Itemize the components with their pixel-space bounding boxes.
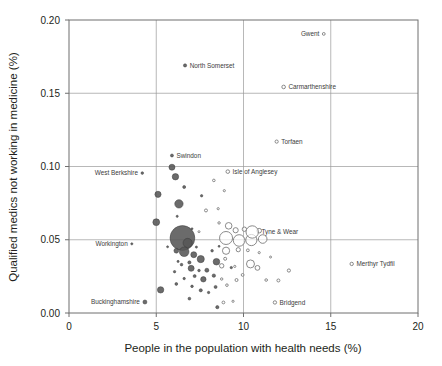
data-bubble: [191, 252, 197, 258]
labeled-data-point: [275, 140, 278, 143]
data-bubble: [270, 256, 272, 258]
x-tick-label: 20: [412, 321, 424, 332]
data-bubble: [246, 260, 254, 268]
labeled-data-point: [143, 300, 147, 304]
data-bubble: [216, 306, 219, 309]
labeled-data-point: [322, 33, 325, 36]
data-bubble: [258, 235, 267, 244]
data-bubble: [212, 274, 215, 277]
data-bubble: [213, 258, 220, 265]
data-bubble: [174, 248, 179, 253]
point-label: Merthyr Tydfil: [356, 260, 394, 268]
data-bubble: [222, 301, 225, 304]
data-bubble: [214, 285, 217, 288]
data-bubble: [197, 255, 204, 262]
data-bubble: [175, 200, 183, 208]
data-bubble: [198, 269, 201, 272]
data-bubble: [179, 247, 189, 257]
y-tick-label: 0.15: [41, 88, 61, 99]
data-bubble: [220, 278, 222, 280]
labeled-data-point: [282, 85, 286, 89]
data-bubble: [218, 245, 220, 247]
data-bubble: [198, 231, 200, 233]
data-bubble: [232, 300, 234, 302]
data-bubble: [188, 261, 191, 264]
data-bubble: [223, 190, 225, 192]
labeled-data-point: [141, 172, 144, 175]
data-bubble: [155, 191, 161, 197]
labeled-data-point: [273, 301, 276, 304]
data-bubble: [188, 297, 191, 300]
data-bubble: [175, 283, 178, 286]
data-bubble: [173, 270, 175, 272]
x-tick-label: 15: [325, 321, 337, 332]
data-bubble: [233, 235, 245, 247]
data-bubble: [241, 274, 244, 277]
data-bubble: [195, 246, 197, 248]
data-bubble: [205, 268, 209, 272]
point-label: West Berkshire: [95, 169, 139, 176]
data-bubble: [183, 277, 185, 279]
point-label: Torfaen: [281, 138, 303, 145]
data-bubble: [193, 275, 196, 278]
data-bubble: [153, 219, 160, 226]
data-bubble: [217, 208, 219, 210]
data-bubble: [287, 269, 290, 272]
point-label: Buckinghamshire: [91, 298, 140, 306]
data-bubble: [191, 285, 194, 288]
labeled-data-point: [131, 243, 133, 245]
data-bubble: [200, 195, 202, 197]
data-bubble: [213, 179, 216, 182]
point-label: Gwent: [301, 30, 320, 37]
data-bubble: [226, 284, 229, 287]
labeled-data-point: [170, 154, 173, 157]
labeled-data-point: [183, 64, 186, 67]
y-tick-label: 0.10: [41, 161, 61, 172]
data-bubble: [169, 164, 175, 170]
data-bubble: [220, 231, 233, 244]
data-bubble: [183, 238, 192, 247]
figure-background: [0, 0, 442, 366]
data-bubble: [207, 291, 209, 293]
data-bubble: [211, 249, 214, 252]
point-label: Bridgend: [280, 299, 306, 307]
data-bubble: [157, 287, 163, 293]
data-bubble: [258, 252, 260, 254]
point-label: Isle of Anglesey: [233, 168, 279, 176]
y-tick-label: 0.05: [41, 234, 61, 245]
point-label: Tyne & Wear: [261, 228, 299, 236]
data-bubble: [235, 279, 238, 282]
x-tick-label: 10: [238, 321, 250, 332]
data-bubble: [277, 279, 280, 282]
data-bubble: [218, 222, 220, 224]
point-label: Carmarthenshire: [288, 83, 336, 90]
data-bubble: [176, 215, 178, 217]
data-bubble: [224, 257, 227, 260]
data-bubble: [230, 266, 232, 268]
x-axis-title: People in the population with health nee…: [124, 342, 361, 354]
data-bubble: [183, 186, 186, 189]
data-bubble: [255, 265, 260, 270]
data-bubble: [246, 249, 249, 252]
x-tick-label: 0: [66, 321, 72, 332]
data-bubble: [180, 263, 183, 266]
data-bubble: [219, 264, 223, 268]
labeled-data-point: [246, 226, 258, 238]
data-bubble: [172, 174, 178, 180]
data-bubble: [234, 265, 236, 267]
y-axis-title: Qualified medics not working in medicine…: [7, 52, 19, 282]
data-bubble: [233, 228, 238, 233]
data-bubble: [199, 289, 202, 292]
point-label: Workington: [96, 240, 129, 248]
scatter-plot-svg: GwentNorth SomersetCarmarthenshireTorfae…: [0, 0, 442, 366]
data-bubble: [265, 279, 268, 282]
data-bubble: [222, 247, 229, 254]
data-bubble: [167, 246, 169, 248]
data-bubble: [191, 228, 193, 230]
data-bubble: [201, 277, 206, 282]
data-bubble: [204, 209, 207, 212]
point-label: Swindon: [176, 152, 201, 159]
data-bubble: [188, 265, 194, 271]
x-tick-label: 5: [153, 321, 159, 332]
scatter-plot-figure: GwentNorth SomersetCarmarthenshireTorfae…: [0, 0, 442, 366]
